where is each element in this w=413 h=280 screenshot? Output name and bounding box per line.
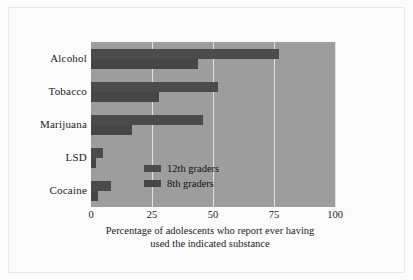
legend-label: 8th graders	[167, 178, 214, 189]
caption-line-2: used the indicated substance	[40, 237, 380, 250]
y-axis-label-alcohol: Alcohol	[3, 52, 87, 64]
bar	[91, 181, 111, 191]
bar-group	[91, 82, 335, 102]
x-tick-25: 25	[147, 209, 158, 220]
y-axis-label-lsd: LSD	[3, 151, 87, 163]
y-axis-label-tobacco: Tobacco	[3, 85, 87, 97]
bar	[91, 125, 132, 135]
legend-item: 8th graders	[144, 177, 254, 190]
chart-legend: 12th graders8th graders	[144, 162, 254, 192]
bar	[91, 82, 218, 92]
y-axis-label-marijuana: Marijuana	[3, 118, 87, 130]
bar	[91, 115, 203, 125]
bar	[91, 49, 279, 59]
bar	[91, 148, 103, 158]
legend-item: 12th graders	[144, 162, 254, 175]
legend-swatch-icon	[144, 165, 161, 172]
y-axis-label-cocaine: Cocaine	[3, 184, 87, 196]
caption-line-1: Percentage of adolescents who report eve…	[40, 224, 380, 237]
x-tick-50: 50	[208, 209, 219, 220]
legend-label: 12th graders	[167, 163, 219, 174]
bar	[91, 191, 98, 201]
bar	[91, 158, 96, 168]
gridline-100	[335, 42, 336, 207]
bar-group	[91, 49, 335, 69]
legend-swatch-icon	[144, 180, 161, 187]
figure-container: AlcoholTobaccoMarijuanaLSDCocaine 12th g…	[0, 0, 413, 280]
y-axis-category-labels: AlcoholTobaccoMarijuanaLSDCocaine	[0, 42, 87, 207]
x-axis-ticks: 0255075100	[91, 209, 335, 225]
bar	[91, 92, 159, 102]
bar-group	[91, 115, 335, 135]
bar	[91, 59, 198, 69]
x-tick-75: 75	[269, 209, 280, 220]
x-tick-100: 100	[327, 209, 343, 220]
x-tick-0: 0	[88, 209, 93, 220]
x-axis-caption: Percentage of adolescents who report eve…	[40, 224, 380, 250]
